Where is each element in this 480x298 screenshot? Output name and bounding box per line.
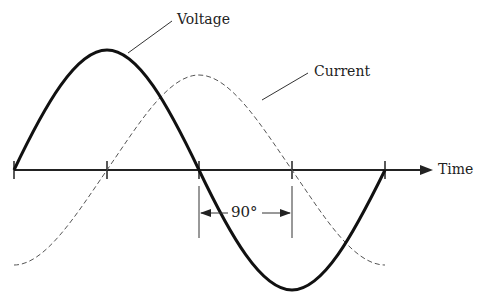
phase-arrow-right-icon: [280, 209, 291, 217]
voltage-leader-line: [128, 21, 172, 53]
sine-phase-diagram: [0, 0, 480, 298]
current-leader-line: [262, 73, 308, 100]
phase-arrow-left-icon: [200, 209, 211, 217]
phase-shift-label: 90°: [231, 203, 258, 221]
current-label: Current: [314, 63, 370, 79]
time-axis-label: Time: [438, 161, 473, 177]
voltage-label: Voltage: [177, 11, 230, 27]
axis-arrowhead-icon: [420, 165, 433, 175]
